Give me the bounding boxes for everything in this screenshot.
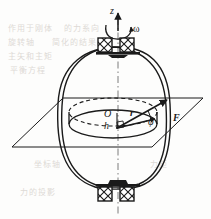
application-point: [116, 127, 118, 129]
label-radius: r: [130, 108, 134, 118]
vectors: [116, 100, 167, 129]
central-disk: [69, 98, 157, 138]
label-force: F: [173, 113, 180, 123]
label-height: h: [104, 121, 109, 131]
disk-bottom-ellipse: [69, 110, 157, 138]
force-vector-F: [117, 100, 167, 128]
bearing-icon: [98, 187, 112, 201]
label-z-axis: z: [110, 6, 114, 16]
bearing-icon: [120, 187, 134, 201]
figure-container: 作用于刚体 的力系向 旋转轴 简化的结果 主矢和主矩 平衡方程 坐标轴 力的投影…: [0, 0, 211, 219]
bearing-icon: [98, 38, 112, 52]
bearing-icon: [120, 38, 134, 52]
label-phi-angle: φ: [148, 117, 154, 127]
label-origin: O: [104, 109, 111, 119]
label-angular-velocity: ω: [133, 24, 140, 34]
